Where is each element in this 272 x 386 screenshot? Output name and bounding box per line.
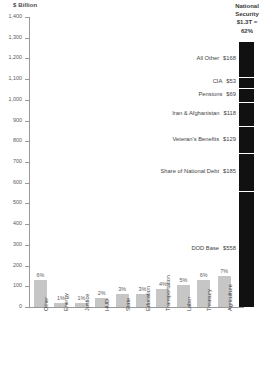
y-tick-label: 1,200 — [9, 54, 23, 60]
y-tick-label: 1,400 — [9, 13, 23, 19]
callout-label: Pensions — [198, 91, 222, 97]
y-tick-mark — [25, 183, 29, 184]
y-tick-label: 500 — [13, 199, 22, 205]
y-tick-mark — [25, 203, 29, 204]
callout-value: $168 — [223, 55, 236, 61]
callout-iran-afghanistan: Iran & Afghanistan$118 — [60, 110, 236, 116]
y-tick-label: 0 — [19, 303, 22, 309]
callout-value: $53 — [226, 78, 236, 84]
callout-pensions: Pensions$69 — [60, 91, 236, 97]
y-tick-label: 200 — [13, 262, 22, 268]
y-tick-label: 700 — [13, 158, 22, 164]
y-tick-mark — [25, 121, 29, 122]
callout-all-other: All Other$168 — [60, 55, 236, 61]
bar-percent-label: 3% — [112, 286, 132, 292]
y-tick-label: 300 — [13, 241, 22, 247]
callout-cia: CIA$53 — [60, 78, 236, 84]
y-tick-mark — [25, 307, 29, 308]
y-tick-mark — [25, 58, 29, 59]
y-tick-label: 1,100 — [9, 75, 23, 81]
callout-label: DOD Base — [191, 245, 219, 251]
x-label-energy: Energy — [63, 293, 69, 311]
y-tick-mark — [25, 266, 29, 267]
stacked-segment-divider — [239, 102, 254, 103]
y-axis-line — [29, 17, 30, 308]
y-tick-label: 800 — [13, 137, 22, 143]
stacked-bar-national-security[interactable] — [239, 42, 254, 307]
ns-header-total: $1.3T = — [222, 18, 272, 26]
ns-header-line2: Security — [222, 10, 272, 18]
y-axis-title: $ Billion — [13, 2, 37, 8]
bar-percent-label: 6% — [194, 272, 214, 278]
y-tick-mark — [25, 224, 29, 225]
ns-header-line1: National — [222, 2, 272, 10]
stacked-segment-divider — [239, 153, 254, 154]
stacked-segment-divider — [239, 126, 254, 127]
x-label-other: Other — [43, 297, 49, 311]
callout-label: All Other — [197, 55, 220, 61]
bar-percent-label: 6% — [31, 272, 51, 278]
bar-percent-label: 7% — [214, 268, 234, 274]
callout-value: $69 — [226, 91, 236, 97]
bar-percent-label: 5% — [173, 277, 193, 283]
callout-label: CIA — [213, 78, 223, 84]
y-tick-mark — [25, 245, 29, 246]
y-tick-mark — [25, 38, 29, 39]
y-tick-label: 600 — [13, 179, 22, 185]
x-label-labor: Labor — [186, 297, 192, 311]
x-label-agriculture: Agriculture — [227, 284, 233, 311]
stacked-segment-divider — [239, 191, 254, 192]
x-label-education: Education — [145, 286, 151, 311]
y-tick-label: 1,000 — [9, 96, 23, 102]
x-label-transportation: Transportation — [165, 275, 171, 311]
y-tick-mark — [25, 100, 29, 101]
x-label-justice: Justice — [84, 294, 90, 311]
y-tick-label: 900 — [13, 117, 22, 123]
callout-value: $129 — [223, 136, 236, 142]
y-tick-mark — [25, 79, 29, 80]
y-tick-mark — [25, 17, 29, 18]
callout-veteran-s-benefits: Veteran's Benefits$129 — [60, 136, 236, 142]
y-tick-label: 100 — [13, 282, 22, 288]
callout-value: $185 — [223, 168, 236, 174]
federal-spending-bar-chart: $ Billion 1,4001,3001,2001,1001,00090080… — [0, 0, 272, 386]
callout-dod-base: DOD Base$558 — [60, 245, 236, 251]
callout-label: Iran & Afghanistan — [172, 110, 219, 116]
stacked-segment-divider — [239, 88, 254, 89]
bar-percent-label: 2% — [92, 290, 112, 296]
national-security-header: National Security $1.3T = 62% — [222, 2, 272, 35]
callout-label: Share of National Debt — [160, 168, 219, 174]
callout-label: Veteran's Benefits — [173, 136, 220, 142]
y-tick-mark — [25, 286, 29, 287]
callout-share-of-national-debt: Share of National Debt$185 — [60, 168, 236, 174]
x-label-treasury: Treasury — [206, 289, 212, 311]
ns-header-percent: 62% — [222, 27, 272, 35]
y-tick-mark — [25, 162, 29, 163]
y-tick-label: 400 — [13, 220, 22, 226]
x-label-hud: HUD — [104, 299, 110, 311]
stacked-segment-divider — [239, 77, 254, 78]
callout-value: $558 — [223, 245, 236, 251]
y-tick-mark — [25, 141, 29, 142]
callout-value: $118 — [224, 110, 236, 116]
x-label-state: State — [125, 298, 131, 311]
y-tick-label: 1,300 — [9, 34, 23, 40]
